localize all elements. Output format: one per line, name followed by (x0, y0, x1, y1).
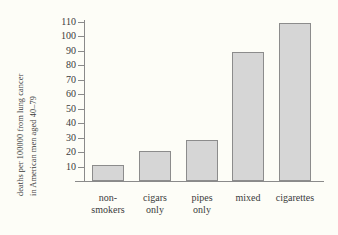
x-axis-label-line: cigarettes (255, 192, 335, 204)
y-tick-label: 80 (36, 60, 76, 70)
y-tick-mark (78, 51, 84, 52)
y-tick-label: 50 (36, 104, 76, 114)
y-tick-label: 70 (36, 75, 76, 85)
bar-non-smokers[interactable] (92, 165, 124, 181)
y-tick-mark (78, 22, 84, 23)
y-tick-label: 10 (36, 162, 76, 172)
y-tick-label: 100 (36, 31, 76, 41)
bar-cigars-only[interactable] (139, 151, 171, 181)
y-tick-label: 110 (36, 17, 76, 27)
y-tick-label: 40 (36, 118, 76, 128)
y-axis-title: deaths per 100000 from lung cancer in Am… (0, 0, 40, 200)
y-tick-mark (78, 94, 84, 95)
y-tick-mark (78, 80, 84, 81)
y-tick-mark (78, 109, 84, 110)
y-tick-mark (78, 138, 84, 139)
x-axis-line (75, 181, 324, 182)
y-tick-label: 60 (36, 89, 76, 99)
y-tick-label: 20 (36, 147, 76, 157)
y-axis-title-line-1: deaths per 100000 from lung cancer (14, 0, 28, 196)
y-tick-label: 90 (36, 46, 76, 56)
bar-pipes-only[interactable] (186, 140, 218, 181)
y-axis-line (84, 20, 85, 181)
y-tick-mark (78, 167, 84, 168)
bar-chart: deaths per 100000 from lung cancer in Am… (0, 0, 338, 235)
bar-mixed[interactable] (232, 52, 264, 181)
y-tick-label: 30 (36, 133, 76, 143)
bar-cigarettes[interactable] (279, 23, 311, 181)
x-axis-label-line: only (162, 204, 242, 216)
y-tick-mark (78, 152, 84, 153)
x-axis-label-cigarettes: cigarettes (255, 192, 335, 204)
y-tick-mark (78, 36, 84, 37)
y-tick-mark (78, 123, 84, 124)
y-tick-mark (78, 65, 84, 66)
